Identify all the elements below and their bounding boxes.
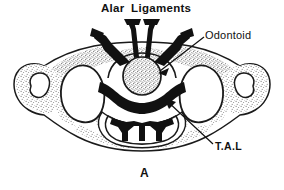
label-alar-ligaments: Alar Ligaments — [101, 3, 191, 15]
transverse-foramen-left — [30, 73, 49, 98]
label-tal: T.A.L — [215, 141, 242, 152]
label-odontoid: Odontoid — [205, 30, 251, 41]
anatomy-figure: Alar Ligaments Odontoid T.A.L A — [0, 0, 284, 190]
transverse-foramen-right — [234, 73, 253, 98]
lateral-mass-left — [61, 65, 104, 122]
lateral-mass-right — [180, 65, 223, 122]
panel-letter: A — [140, 167, 149, 179]
odontoid-process — [123, 57, 161, 95]
